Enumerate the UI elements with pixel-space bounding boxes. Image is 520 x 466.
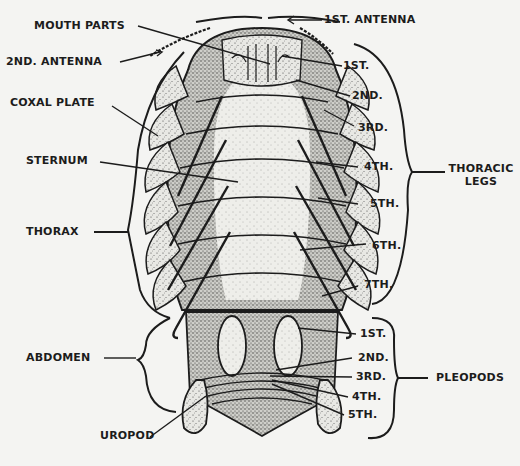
label-thoracic-leg-3: 3RD. bbox=[358, 122, 388, 134]
label-coxal-plate: COXAL PLATE bbox=[10, 97, 95, 109]
label-thoracic-legs-line2: LEGS bbox=[446, 175, 516, 188]
label-uropod: UROPOD bbox=[100, 430, 155, 442]
label-abdomen: ABDOMEN bbox=[26, 352, 90, 364]
label-pleopods-group: PLEOPODS bbox=[436, 372, 504, 384]
label-sternum: STERNUM bbox=[26, 155, 88, 167]
isopod-diagram: MOUTH PARTS 2ND. ANTENNA COXAL PLATE STE… bbox=[0, 0, 520, 466]
label-thoracic-legs-line1: THORACIC bbox=[446, 162, 516, 175]
label-second-antenna: 2ND. ANTENNA bbox=[6, 56, 102, 68]
label-thoracic-leg-7: 7TH. bbox=[364, 279, 393, 291]
label-pleopod-1: 1ST. bbox=[360, 328, 386, 340]
label-first-antenna: 1ST. ANTENNA bbox=[324, 14, 415, 26]
label-thorax: THORAX bbox=[26, 226, 79, 238]
label-pleopod-4: 4TH. bbox=[352, 391, 381, 403]
label-pleopod-5: 5TH. bbox=[348, 409, 377, 421]
label-thoracic-leg-4: 4TH. bbox=[364, 161, 393, 173]
label-thoracic-leg-1: 1ST. bbox=[343, 60, 369, 72]
label-pleopod-3: 3RD. bbox=[356, 371, 386, 383]
label-thoracic-legs-group: THORACIC LEGS bbox=[446, 162, 516, 188]
label-thoracic-leg-6: 6TH. bbox=[372, 240, 401, 252]
label-mouth-parts: MOUTH PARTS bbox=[34, 20, 125, 32]
label-thoracic-leg-5: 5TH. bbox=[370, 198, 399, 210]
thorax-body bbox=[168, 28, 357, 310]
label-pleopod-2: 2ND. bbox=[358, 352, 389, 364]
label-thoracic-leg-2: 2ND. bbox=[352, 90, 383, 102]
